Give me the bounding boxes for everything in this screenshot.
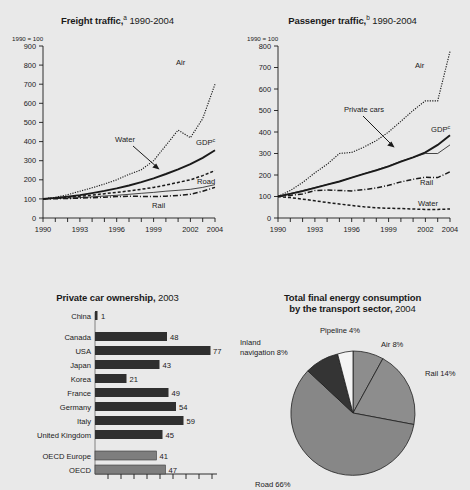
passenger-chart-title: Passenger traffic,b 1990-2004 <box>235 12 470 26</box>
freight-title-main: Freight traffic, <box>61 15 123 26</box>
energy-title-line2-main: by the transport sector, <box>289 303 392 314</box>
cars-bar-france <box>95 388 169 397</box>
cars-label-korea: Korea <box>71 375 92 384</box>
cars-label-germany: Germany <box>60 403 91 412</box>
cars-chart-title: Private car ownership, 2003 <box>0 292 235 303</box>
cars-label-united-kingdom: United Kingdom <box>37 431 91 440</box>
cars-label-canada: Canada <box>64 333 91 342</box>
freight-x-tick-labels: 1990 1993 1996 1999 2002 2004 <box>35 225 223 234</box>
table-row: United Kingdom 45 <box>37 430 174 440</box>
energy-pie-slices <box>291 351 415 475</box>
svg-text:0: 0 <box>32 214 36 223</box>
svg-text:400: 400 <box>259 128 271 137</box>
freight-y-ticks <box>39 46 43 218</box>
svg-text:1993: 1993 <box>72 225 88 234</box>
cars-value-germany: 54 <box>179 403 187 412</box>
panel-freight-traffic: Freight traffic,a 1990-2004 <box>0 12 235 26</box>
passenger-label-private-cars: Private cars <box>344 105 384 114</box>
energy-chart-title: Total final energy consumption by the tr… <box>235 292 470 314</box>
freight-chart-title: Freight traffic,a 1990-2004 <box>0 12 235 26</box>
svg-text:700: 700 <box>259 63 271 72</box>
svg-text:1999: 1999 <box>380 225 396 234</box>
cars-bar-oecd <box>95 465 166 474</box>
cars-value-usa: 77 <box>213 347 221 356</box>
passenger-series-gdp <box>278 135 450 196</box>
svg-text:300: 300 <box>24 156 36 165</box>
svg-text:1990: 1990 <box>270 225 286 234</box>
svg-text:0: 0 <box>267 214 271 223</box>
table-row: OECD 47 <box>69 465 177 475</box>
svg-text:2002: 2002 <box>182 225 198 234</box>
passenger-x-ticks <box>278 218 450 222</box>
freight-label-gdp: GDPc <box>196 137 215 147</box>
panel-private-car-ownership: Private car ownership, 2003 <box>0 292 235 303</box>
table-row: Germany 54 <box>60 402 188 412</box>
table-row: Korea 21 <box>71 374 138 384</box>
svg-text:100: 100 <box>259 192 271 201</box>
passenger-label-gdp: GDPc <box>431 124 450 134</box>
cars-bar-usa <box>95 346 211 355</box>
passenger-y-ticks <box>274 46 278 218</box>
svg-text:1996: 1996 <box>343 225 359 234</box>
svg-text:400: 400 <box>24 137 36 146</box>
cars-title-main: Private car ownership, <box>56 292 155 303</box>
passenger-label-air: Air <box>415 61 425 70</box>
pie-label-road: Road 66% <box>255 480 291 489</box>
freight-x-ticks <box>43 218 215 222</box>
cars-label-italy: Italy <box>77 417 91 426</box>
svg-text:700: 700 <box>24 80 36 89</box>
cars-bottom-axis-ticks <box>108 474 212 479</box>
svg-text:100: 100 <box>24 195 36 204</box>
cars-value-italy: 59 <box>187 417 195 426</box>
svg-text:1993: 1993 <box>307 225 323 234</box>
svg-text:900: 900 <box>24 42 36 51</box>
table-row: Japan 43 <box>70 360 171 370</box>
passenger-x-tick-labels: 1990 1993 1996 1999 2002 2004 <box>270 225 458 234</box>
svg-text:2002: 2002 <box>417 225 433 234</box>
cars-title-year: 2003 <box>155 292 178 303</box>
pie-label-air: Air 8% <box>381 340 404 349</box>
svg-text:1996: 1996 <box>108 225 124 234</box>
svg-text:2004: 2004 <box>207 225 223 234</box>
freight-label-water: Water <box>115 135 135 144</box>
passenger-label-water: Water <box>418 199 438 208</box>
freight-label-air: Air <box>176 58 186 67</box>
freight-label-rail: Rail <box>152 201 165 210</box>
cars-label-japan: Japan <box>70 361 91 370</box>
freight-title-years: 1990-2004 <box>127 15 174 26</box>
table-row: Canada 48 <box>64 332 178 342</box>
cars-bar-korea <box>95 374 127 383</box>
cars-bar-canada <box>95 332 167 341</box>
energy-title-line1: Total final energy consumption <box>235 292 470 303</box>
pie-label-rail: Rail 14% <box>425 369 456 378</box>
svg-text:800: 800 <box>259 42 271 51</box>
svg-text:800: 800 <box>24 61 36 70</box>
cars-chart-svg: China 1 Canada 48 USA 77 Japan 43 Korea … <box>0 308 235 490</box>
pie-label-inland-navigation: Inland <box>240 338 261 347</box>
freight-label-road: Road <box>197 177 215 186</box>
cars-value-japan: 43 <box>163 361 171 370</box>
passenger-chart-svg: 1990 = 100 0 100 200 300 400 500 600 700… <box>235 28 470 250</box>
cars-bar-italy <box>95 416 184 425</box>
energy-title-line2: by the transport sector, 2004 <box>235 303 470 314</box>
freight-chart-svg: 1990 = 100 0 100 200 300 400 500 600 700… <box>0 28 235 250</box>
passenger-label-rail: Rail <box>420 178 433 187</box>
svg-text:2004: 2004 <box>442 225 458 234</box>
svg-text:600: 600 <box>24 99 36 108</box>
cars-value-korea: 21 <box>130 375 138 384</box>
cars-label-france: France <box>67 389 91 398</box>
passenger-title-years: 1990-2004 <box>370 15 417 26</box>
pie-label-pipeline: Pipeline 4% <box>320 326 360 335</box>
panel-passenger-traffic: Passenger traffic,b 1990-2004 <box>235 12 470 26</box>
svg-text:1990: 1990 <box>35 225 51 234</box>
table-row: France 49 <box>67 388 180 398</box>
pie-label-inland-navigation-2: navigation 8% <box>240 348 288 357</box>
passenger-y-tick-labels: 0 100 200 300 400 500 600 700 800 <box>259 42 271 223</box>
energy-title-year: 2004 <box>392 303 415 314</box>
cars-bar-united-kingdom <box>95 430 163 439</box>
svg-text:500: 500 <box>24 118 36 127</box>
cars-bar-germany <box>95 402 176 411</box>
freight-y-tick-labels: 0 100 200 300 400 500 600 700 800 900 <box>24 42 36 223</box>
cars-bar-japan <box>95 360 160 369</box>
freight-water-pointer-arrow <box>133 146 160 169</box>
